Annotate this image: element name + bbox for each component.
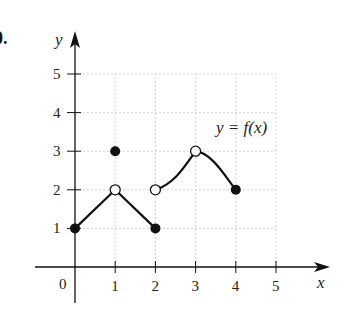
open-point — [110, 185, 120, 195]
origin-label: 0 — [59, 276, 67, 292]
x-tick-label: 2 — [151, 278, 159, 294]
y-tick-label: 3 — [53, 143, 61, 159]
function-label: y = f(x) — [214, 118, 267, 137]
y-tick-label: 5 — [53, 66, 61, 82]
open-point — [150, 185, 160, 195]
grid-lines — [75, 74, 276, 267]
segment-4 — [196, 151, 236, 190]
segment-1 — [75, 190, 115, 229]
closed-point — [231, 185, 241, 195]
function-graph: 0. 1234512345 y = f(x) x y 0 — [0, 0, 341, 321]
tick-marks: 1234512345 — [53, 66, 280, 294]
x-tick-label: 3 — [192, 278, 200, 294]
x-tick-label: 5 — [272, 278, 280, 294]
problem-number: 0. — [0, 28, 8, 49]
y-tick-label: 2 — [53, 182, 61, 198]
plot-area: 1234512345 y = f(x) x y 0 — [0, 0, 341, 321]
y-tick-label: 4 — [53, 105, 61, 121]
axes — [35, 31, 330, 303]
open-point — [191, 146, 201, 156]
segment-2 — [115, 190, 155, 229]
x-tick-label: 1 — [111, 278, 119, 294]
closed-point — [70, 223, 80, 233]
x-axis-label: x — [316, 273, 325, 292]
closed-point — [150, 223, 160, 233]
y-axis-label: y — [53, 30, 63, 49]
x-tick-label: 4 — [232, 278, 240, 294]
closed-point — [110, 146, 120, 156]
y-tick-label: 1 — [53, 220, 61, 236]
segment-3 — [155, 151, 195, 190]
